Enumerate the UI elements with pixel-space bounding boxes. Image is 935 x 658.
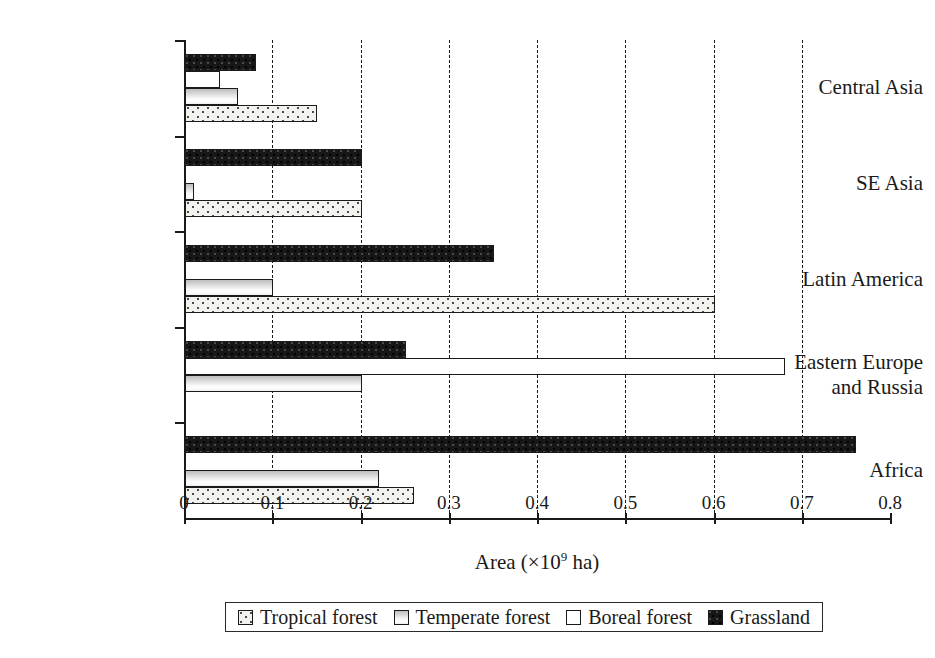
legend-label: Boreal forest [588,607,692,627]
x-axis-tick [361,513,363,524]
x-axis-tick [890,513,892,524]
x-axis-tick [272,513,274,524]
bar-se-asia-grassland [185,149,362,166]
y-axis-tick [175,422,186,424]
x-axis-tick-label: 0.4 [507,492,567,514]
legend-swatch-tropical-forest-icon [238,610,253,625]
x-axis-title: Area (×109 ha) [184,550,890,575]
x-axis-tick-label: 0.1 [242,492,302,514]
bar-central-asia-temperate-forest [185,88,238,105]
legend-item-boreal-forest[interactable]: Boreal forest [566,607,692,627]
bar-africa-temperate-forest [185,470,379,487]
x-axis-tick-label: 0.7 [772,492,832,514]
legend-swatch-temperate-forest-icon [394,610,409,625]
x-axis-tick [714,513,716,524]
chart-legend: Tropical forestTemperate forestBoreal fo… [225,602,823,632]
bar-chart-figure: 00.10.20.30.40.50.60.70.8 Central AsiaSE… [0,0,935,658]
bar-latin-america-tropical-forest [185,296,715,313]
x-axis-tick-label: 0.5 [595,492,655,514]
legend-label: Temperate forest [416,607,551,627]
x-axis-tick [449,513,451,524]
legend-item-temperate-forest[interactable]: Temperate forest [394,607,551,627]
bar-central-asia-grassland [185,54,256,71]
x-axis-tick [802,513,804,524]
x-axis-tick-label: 0 [154,492,214,514]
legend-label: Tropical forest [260,607,378,627]
y-axis-category-label-latin-america: Latin America [760,267,935,292]
bar-se-asia-tropical-forest [185,200,362,217]
x-axis-tick [625,513,627,524]
bar-eastern-europe-and-russia-boreal-forest [185,358,785,375]
bar-latin-america-grassland [185,245,494,262]
x-axis-tick [184,513,186,524]
x-axis-tick-label: 0.6 [684,492,744,514]
bar-eastern-europe-and-russia-temperate-forest [185,375,362,392]
y-axis-category-label-se-asia: SE Asia [760,171,935,196]
bar-africa-grassland [185,436,856,453]
x-axis-tick-label: 0.3 [419,492,479,514]
legend-item-grassland[interactable]: Grassland [708,607,810,627]
x-axis-tick-label: 0.2 [331,492,391,514]
bar-eastern-europe-and-russia-grassland [185,341,406,358]
legend-swatch-boreal-forest-icon [566,610,581,625]
bar-se-asia-temperate-forest [185,183,194,200]
x-axis-tick-label: 0.8 [860,492,920,514]
x-axis-tick [537,513,539,524]
legend-item-tropical-forest[interactable]: Tropical forest [238,607,378,627]
y-axis-tick [175,136,186,138]
bar-central-asia-boreal-forest [185,71,220,88]
y-axis-tick [175,327,186,329]
y-axis-category-label-eastern-europe-and-russia: Eastern Europe and Russia [760,350,935,400]
x-axis-title-exponent: 9 [561,549,568,564]
legend-label: Grassland [730,607,810,627]
y-axis-category-label-africa: Africa [760,458,935,483]
bar-central-asia-tropical-forest [185,105,317,122]
legend-swatch-grassland-icon [708,610,723,625]
y-axis-top-cap [175,40,186,42]
bar-latin-america-temperate-forest [185,279,273,296]
y-axis-tick [175,231,186,233]
y-axis-category-label-central-asia: Central Asia [760,75,935,100]
